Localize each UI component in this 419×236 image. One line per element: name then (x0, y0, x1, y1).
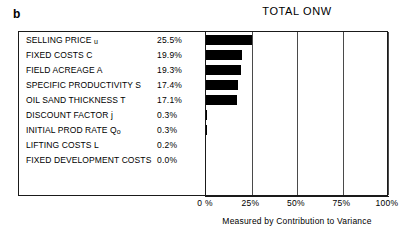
bar (206, 95, 237, 105)
row-value: 19.3% (157, 65, 201, 75)
x-axis-tick-labels: 0 %25%50%75%100% (0, 198, 419, 210)
gridline-100pct (388, 32, 389, 195)
bar-cell (206, 47, 387, 62)
chart-title: TOTAL ONW (205, 5, 389, 17)
table-row: FIXED COSTS C19.9% (19, 47, 387, 62)
row-label: DISCOUNT FACTOR j (26, 110, 113, 120)
x-tick-label-75: 75% (333, 198, 351, 208)
row-label: FIELD ACREAGE A (26, 65, 103, 75)
bar (206, 110, 207, 120)
row-value: 0.0% (157, 155, 201, 165)
row-value: 0.2% (157, 140, 201, 150)
row-value: 17.1% (157, 95, 201, 105)
row-label: SPECIFIC PRODUCTIVITY S (26, 80, 141, 90)
x-tick-label-0: 0 % (197, 198, 213, 208)
table-row: INITIAL PROD RATE Qo0.3% (19, 122, 387, 137)
x-tick-label-50: 50% (287, 198, 305, 208)
row-label: INITIAL PROD RATE Qo (26, 125, 121, 135)
row-value: 25.5% (157, 35, 201, 45)
bar-cell (206, 137, 387, 152)
row-label-subscript: u (94, 38, 98, 45)
x-axis-line (205, 196, 389, 197)
chart-rows: SELLING PRICE u25.5%FIXED COSTS C19.9%FI… (19, 32, 387, 167)
x-tick-label-100: 100% (376, 198, 399, 208)
bar (206, 80, 238, 90)
table-row: FIXED DEVELOPMENT COSTS0.0% (19, 152, 387, 167)
row-value: 0.3% (157, 110, 201, 120)
bar-cell (206, 92, 387, 107)
table-row: SPECIFIC PRODUCTIVITY S17.4% (19, 77, 387, 92)
row-value: 17.4% (157, 80, 201, 90)
panel-letter: b (13, 7, 20, 21)
bar-cell (206, 62, 387, 77)
x-tick-label-25: 25% (242, 198, 260, 208)
table-row: FIELD ACREAGE A19.3% (19, 62, 387, 77)
table-row: LIFTING COSTS L0.2% (19, 137, 387, 152)
chart-plot-frame: SELLING PRICE u25.5%FIXED COSTS C19.9%FI… (18, 31, 388, 196)
bar-cell (206, 152, 387, 167)
row-label-subscript: o (117, 128, 121, 135)
table-row: OIL SAND THICKNESS T17.1% (19, 92, 387, 107)
bar-cell (206, 77, 387, 92)
x-axis-caption: Measured by Contribution to Variance (205, 216, 389, 226)
bar (206, 65, 241, 75)
bar-cell (206, 122, 387, 137)
tornado-chart-figure: b TOTAL ONW SELLING PRICE u25.5%FIXED CO… (0, 0, 419, 236)
bar (206, 125, 207, 135)
table-row: DISCOUNT FACTOR j0.3% (19, 107, 387, 122)
row-label: FIXED DEVELOPMENT COSTS (26, 155, 151, 165)
bar-cell (206, 107, 387, 122)
row-label: SELLING PRICE u (26, 35, 98, 45)
bar (206, 50, 242, 60)
row-label: FIXED COSTS C (26, 50, 92, 60)
row-label: LIFTING COSTS L (26, 140, 99, 150)
bar-cell (206, 32, 387, 47)
bar (206, 35, 252, 45)
row-value: 19.9% (157, 50, 201, 60)
table-row: SELLING PRICE u25.5% (19, 32, 387, 47)
row-value: 0.3% (157, 125, 201, 135)
row-label: OIL SAND THICKNESS T (26, 95, 126, 105)
